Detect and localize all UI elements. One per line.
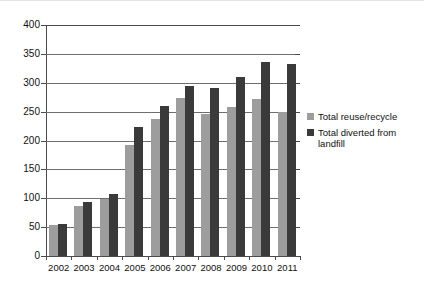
legend-item: Total reuse/recycle <box>307 111 419 122</box>
x-axis-tick-mark <box>198 256 199 260</box>
y-axis-tick-label: 300 <box>0 78 40 88</box>
bar <box>201 114 210 256</box>
bar-group <box>198 25 223 256</box>
y-axis-tick-label: 400 <box>0 20 40 30</box>
x-axis-tick-mark <box>46 256 47 260</box>
bar-group <box>122 25 147 256</box>
bar-group <box>97 25 122 256</box>
y-axis-tick-label: 50 <box>0 222 40 232</box>
x-axis-tick-mark <box>275 256 276 260</box>
bar <box>227 107 236 256</box>
bar <box>58 224 67 256</box>
y-axis-tick-label: 350 <box>0 49 40 59</box>
x-axis-tick-mark <box>249 256 250 260</box>
y-axis-tick-label: 150 <box>0 164 40 174</box>
legend-item-label: Total reuse/recycle <box>318 111 397 122</box>
bar-group <box>249 25 274 256</box>
x-axis-tick-mark <box>71 256 72 260</box>
bars-layer <box>46 25 300 256</box>
bar <box>185 86 194 256</box>
bar <box>83 202 92 256</box>
bar <box>134 127 143 256</box>
chart-legend: Total reuse/recycle Total diverted from … <box>307 111 419 154</box>
bar-group <box>148 25 173 256</box>
bar <box>100 199 109 256</box>
x-axis-tick-mark <box>224 256 225 260</box>
bar-group <box>71 25 96 256</box>
legend-item: Total diverted from landfill <box>307 127 419 149</box>
y-axis-tick-label: 250 <box>0 107 40 117</box>
bar <box>109 194 118 256</box>
bar <box>287 64 296 256</box>
bar-group <box>46 25 71 256</box>
legend-item-label: Total diverted from landfill <box>318 127 419 149</box>
x-axis-tick-mark <box>300 256 301 260</box>
bar <box>125 145 134 256</box>
x-axis-tick-mark <box>97 256 98 260</box>
bar <box>278 112 287 256</box>
x-axis-tick-label: 2011 <box>272 262 302 273</box>
bar <box>252 99 261 256</box>
bar-chart-figure: 050100150200250300350400 200220032004200… <box>0 0 424 283</box>
bar <box>236 77 245 256</box>
bar-group <box>224 25 249 256</box>
x-axis-tick-mark <box>122 256 123 260</box>
bar-group <box>173 25 198 256</box>
bar-group <box>275 25 300 256</box>
x-axis-tick-mark <box>148 256 149 260</box>
bar <box>210 88 219 256</box>
x-axis-tick-mark <box>173 256 174 260</box>
y-axis-tick-label: 100 <box>0 193 40 203</box>
bar <box>49 225 58 256</box>
bar <box>74 206 83 256</box>
bar <box>176 98 185 256</box>
bar <box>261 62 270 256</box>
y-axis-tick-label: 0 <box>0 251 40 261</box>
y-axis-tick-label: 200 <box>0 136 40 146</box>
bar <box>151 119 160 256</box>
legend-swatch-icon <box>307 113 314 120</box>
bar <box>160 106 169 256</box>
legend-swatch-icon <box>307 129 314 136</box>
